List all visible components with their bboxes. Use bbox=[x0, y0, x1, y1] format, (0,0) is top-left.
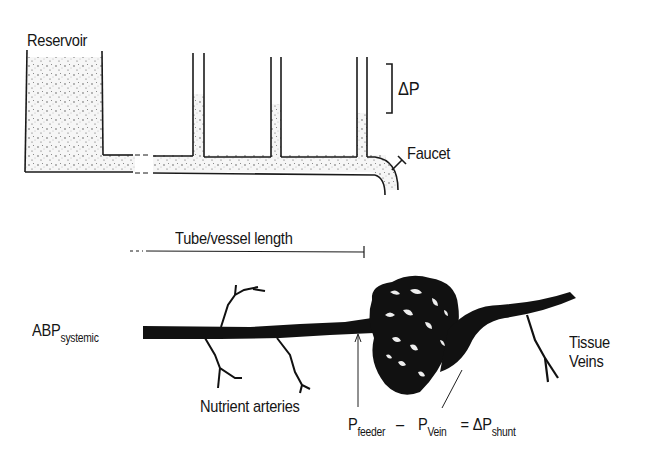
vessel-illustration bbox=[143, 276, 576, 408]
equals-delta-p: = ΔP bbox=[461, 415, 492, 434]
diagram-canvas bbox=[0, 0, 653, 460]
pressure-equation: Pfeeder – PVein = ΔPshunt bbox=[348, 415, 516, 435]
abp-main: ABP bbox=[32, 321, 60, 340]
tissue-label-line2: Veins bbox=[569, 352, 610, 371]
reservoir-label: Reservoir bbox=[27, 31, 87, 51]
abp-sub: systemic bbox=[60, 331, 98, 345]
length-axis-label: Tube/vessel length bbox=[175, 229, 293, 249]
tissue-veins-label: Tissue Veins bbox=[569, 333, 610, 371]
p-vein-sub: Vein bbox=[427, 425, 446, 439]
nutrient-arteries-label: Nutrient arteries bbox=[200, 397, 300, 417]
reservoir-tube-system bbox=[25, 50, 406, 195]
faucet-label: Faucet bbox=[407, 144, 450, 164]
abp-systemic-label: ABPsystemic bbox=[32, 321, 99, 341]
tissue-label-line1: Tissue bbox=[569, 333, 610, 352]
p-feeder-main: P bbox=[348, 415, 358, 434]
delta-p-label: ΔP bbox=[398, 78, 419, 100]
delta-p-shunt-sub: shunt bbox=[492, 425, 516, 439]
p-vein-main: P bbox=[418, 415, 428, 434]
minus-sign: – bbox=[396, 415, 404, 434]
p-feeder-sub: feeder bbox=[358, 425, 386, 439]
